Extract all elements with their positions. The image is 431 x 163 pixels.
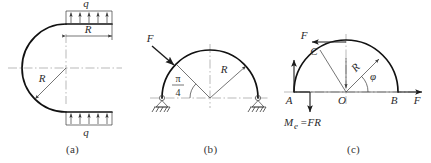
panel-c-drawing: A O B M e =FR F F C	[276, 0, 431, 140]
radius-arrow-R	[210, 66, 246, 98]
angle-label-phi: φ	[370, 70, 376, 82]
moment-symbol: M	[283, 116, 294, 128]
top-load-arrows	[71, 13, 107, 24]
moment-value: =FR	[300, 116, 321, 128]
caption-b: (b)	[138, 143, 283, 155]
radius-label-R: R	[348, 60, 362, 74]
panel-b-drawing: F π 4 R	[138, 0, 283, 140]
angle-numerator: π	[175, 73, 180, 84]
engineering-figure: q R R q (a)	[0, 0, 431, 163]
diagram-panel-a: q R R q (a)	[0, 0, 145, 163]
radius-label-R: R	[38, 72, 46, 84]
force-arrow-F	[152, 46, 174, 65]
angle-arc-pi-over-4	[190, 84, 196, 98]
angle-label-pi-over-4: π 4	[172, 73, 184, 98]
point-label-C: C	[310, 45, 318, 57]
dimension-label-R: R	[84, 23, 92, 35]
angle-arc-phi	[362, 76, 368, 92]
point-label-O: O	[338, 94, 346, 106]
radius-label-R: R	[220, 63, 228, 75]
point-label-B: B	[391, 94, 398, 106]
diagram-panel-c: A O B M e =FR F F C	[276, 0, 431, 163]
diagram-panel-b: F π 4 R	[138, 0, 283, 163]
load-label-top: q	[83, 0, 89, 9]
panel-a-drawing: q R R q	[0, 0, 145, 140]
point-label-A: A	[285, 94, 293, 106]
moment-label: M e =FR	[283, 116, 321, 131]
radial-line-OC	[320, 50, 346, 92]
moment-subscript: e	[294, 121, 298, 131]
force-label-B: F	[413, 94, 421, 106]
force-label-top: F	[300, 29, 308, 41]
caption-c: (c)	[276, 143, 431, 155]
caption-a: (a)	[0, 143, 145, 155]
bottom-load-arrows	[71, 114, 107, 125]
force-label-F: F	[146, 32, 154, 44]
load-label-bottom: q	[83, 126, 89, 138]
angle-denominator: 4	[176, 87, 181, 98]
radial-line-to-force	[176, 64, 210, 98]
